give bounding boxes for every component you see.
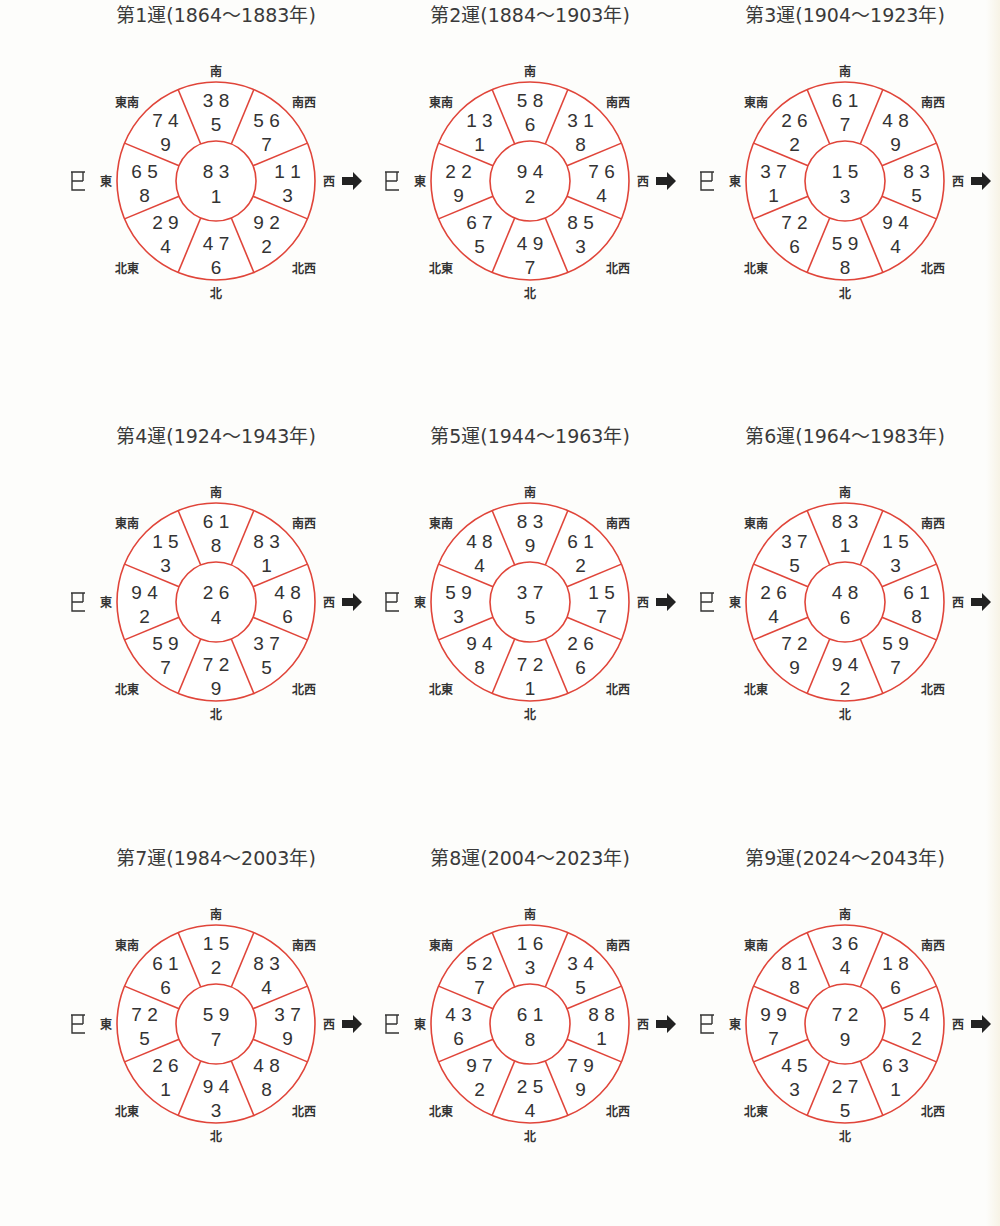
- center-stars-top: 7 2: [832, 1004, 858, 1025]
- direction-label-southeast: 東南: [429, 516, 453, 531]
- direction-label-southwest: 南西: [921, 938, 945, 953]
- sector-star-bottom: 1: [596, 1028, 607, 1049]
- sector-star-bottom: 1: [768, 185, 779, 206]
- sector-star-bottom: 8: [789, 977, 800, 998]
- sector-star-bottom: 9: [160, 134, 171, 155]
- sector-star-bottom: 3: [282, 185, 293, 206]
- sector-star-bottom: 2: [139, 606, 150, 627]
- sector-star-bottom: 6: [211, 257, 222, 278]
- sector-stars-top: 8 3: [253, 953, 279, 974]
- sector-star-bottom: 7: [768, 1028, 779, 1049]
- sector-star-bottom: 5: [139, 1028, 150, 1049]
- sector-stars-top: 1 3: [466, 110, 492, 131]
- direction-label-southwest: 南西: [921, 516, 945, 531]
- direction-label-southwest: 南西: [606, 938, 630, 953]
- direction-label-south: 南: [839, 907, 851, 922]
- sector-star-bottom: 7: [596, 606, 607, 627]
- sector-stars-top: 9 4: [466, 633, 493, 654]
- period-chart-7: 第7運(1984〜2003年)5 971 528 343 794 889 432…: [56, 843, 376, 1173]
- sector-stars-top: 3 6: [832, 933, 858, 954]
- west-arrow-icon: [656, 593, 676, 611]
- sector-star-bottom: 1: [840, 535, 851, 556]
- direction-label-north: 北: [839, 707, 851, 722]
- flying-star-wheel: 7 293 641 865 426 312 754 539 978 18南南西西…: [685, 843, 1000, 1173]
- sector-star-bottom: 6: [160, 977, 171, 998]
- sector-star-bottom: 1: [890, 1079, 901, 1100]
- sector-star-bottom: 9: [211, 678, 222, 699]
- sector-stars-top: 5 9: [832, 233, 858, 254]
- center-star-bottom: 5: [525, 607, 536, 628]
- direction-label-southeast: 東南: [429, 938, 453, 953]
- direction-label-east: 東: [729, 595, 741, 610]
- sector-stars-top: 4 8: [253, 1055, 279, 1076]
- sector-star-bottom: 4: [596, 185, 607, 206]
- center-stars-top: 6 1: [517, 1004, 543, 1025]
- sector-stars-top: 8 8: [588, 1004, 614, 1025]
- direction-label-northwest: 北西: [921, 1104, 945, 1119]
- sector-stars-top: 8 3: [903, 161, 929, 182]
- direction-label-east: 東: [414, 174, 426, 189]
- direction-label-southwest: 南西: [606, 516, 630, 531]
- sector-stars-top: 3 7: [274, 1004, 300, 1025]
- sector-stars-top: 1 5: [588, 582, 614, 603]
- flying-star-wheel: 5 971 528 343 794 889 432 617 256 16南南西西…: [56, 843, 376, 1173]
- direction-label-southeast: 東南: [115, 95, 139, 110]
- sector-star-bottom: 8: [261, 1079, 272, 1100]
- period-chart-3: 第3運(1904〜1923年)1 536 174 898 359 445 987…: [685, 0, 1000, 330]
- sector-star-bottom: 2: [840, 678, 851, 699]
- sector-star-bottom: 6: [525, 114, 536, 135]
- direction-label-north: 北: [524, 286, 536, 301]
- east-symbol-icon: [700, 593, 714, 611]
- direction-label-northwest: 北西: [606, 1104, 630, 1119]
- sector-stars-top: 5 9: [445, 582, 471, 603]
- sector-stars-top: 5 9: [152, 633, 178, 654]
- direction-label-north: 北: [210, 1129, 222, 1144]
- sector-star-bottom: 2: [211, 957, 222, 978]
- direction-label-east: 東: [729, 1017, 741, 1032]
- sector-stars-top: 9 4: [131, 582, 158, 603]
- period-chart-6: 第6運(1964〜1983年)4 868 311 536 185 979 427…: [685, 421, 1000, 751]
- sector-star-bottom: 7: [890, 657, 901, 678]
- direction-label-east: 東: [100, 1017, 112, 1032]
- sector-stars-top: 1 5: [152, 531, 178, 552]
- sector-stars-top: 1 6: [517, 933, 543, 954]
- sector-star-bottom: 9: [789, 657, 800, 678]
- sector-star-bottom: 8: [840, 257, 851, 278]
- east-symbol-icon: [385, 593, 399, 611]
- flying-star-wheel: 8 313 855 671 139 224 762 946 587 49南南西西…: [56, 0, 376, 330]
- direction-label-southeast: 東南: [429, 95, 453, 110]
- direction-label-northwest: 北西: [292, 261, 316, 276]
- sector-stars-top: 4 5: [781, 1055, 807, 1076]
- sector-star-bottom: 8: [911, 606, 922, 627]
- sector-star-bottom: 3: [789, 1079, 800, 1100]
- sector-stars-top: 9 9: [760, 1004, 786, 1025]
- west-arrow-icon: [971, 172, 991, 190]
- flying-star-wheel: 2 646 188 314 863 757 295 979 421 53南南西西…: [56, 421, 376, 751]
- direction-label-west: 西: [952, 596, 964, 610]
- sector-stars-top: 2 6: [781, 110, 807, 131]
- sector-stars-top: 5 4: [903, 1004, 930, 1025]
- center-star-bottom: 8: [525, 1029, 536, 1050]
- direction-label-southwest: 南西: [921, 95, 945, 110]
- sector-stars-top: 3 8: [203, 90, 229, 111]
- sector-star-bottom: 3: [890, 555, 901, 576]
- center-star-bottom: 7: [211, 1029, 222, 1050]
- sector-star-bottom: 4: [840, 957, 851, 978]
- sector-stars-top: 5 9: [882, 633, 908, 654]
- sector-stars-top: 1 1: [274, 161, 300, 182]
- sector-stars-top: 4 8: [466, 531, 492, 552]
- direction-label-south: 南: [839, 485, 851, 500]
- east-symbol-icon: [385, 1015, 399, 1033]
- sector-stars-top: 9 4: [882, 212, 909, 233]
- center-stars-top: 8 3: [203, 161, 229, 182]
- center-star-bottom: 4: [211, 607, 222, 628]
- center-star-bottom: 9: [840, 1029, 851, 1050]
- sector-star-bottom: 6: [575, 657, 586, 678]
- sector-stars-top: 3 7: [253, 633, 279, 654]
- sector-stars-top: 2 2: [445, 161, 471, 182]
- sector-stars-top: 4 8: [274, 582, 300, 603]
- sector-star-bottom: 6: [282, 606, 293, 627]
- direction-label-south: 南: [524, 907, 536, 922]
- sector-stars-top: 7 2: [781, 633, 807, 654]
- sector-stars-top: 8 3: [517, 511, 543, 532]
